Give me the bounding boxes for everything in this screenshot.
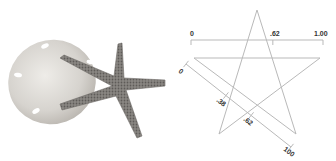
pentagram-diagram: 0 .62 1.00 0 .38 .62 100 (0, 0, 336, 161)
diagonal-ruler-line (186, 64, 291, 147)
diagonal-label-38: .38 (215, 96, 227, 108)
horizontal-label-62: .62 (270, 30, 280, 37)
star-edge-top-bottomright (257, 10, 296, 134)
pentagram (194, 10, 320, 134)
horizontal-label-0: 0 (190, 30, 194, 37)
horizontal-ruler (191, 40, 323, 45)
diagonal-label-0: 0 (177, 67, 184, 75)
horizontal-label-100: 1.00 (314, 30, 328, 37)
diagonal-label-100: 100 (282, 145, 296, 158)
star-edge-right-bottomleft (219, 58, 320, 134)
diagonal-ruler-tick (184, 61, 189, 67)
diagonal-ruler-tick (223, 92, 228, 98)
